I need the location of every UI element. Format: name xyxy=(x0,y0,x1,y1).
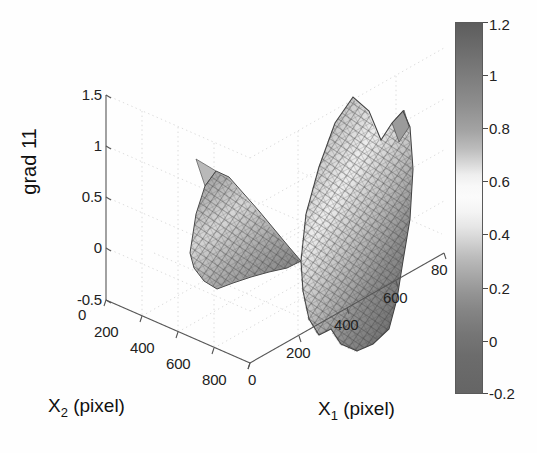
colorbar-tick-7: -0.2 xyxy=(489,385,515,402)
colorbar-tick-6: 0 xyxy=(489,333,497,350)
x2-axis-title-sub: 2 xyxy=(61,405,68,420)
x1-tick-3: 600 xyxy=(383,290,407,305)
surface-left-lobe xyxy=(180,150,320,300)
colorbar-tickmark-6 xyxy=(483,341,488,342)
colorbar-tickmark-0 xyxy=(483,22,488,23)
x2-tick-0: 0 xyxy=(78,307,86,322)
colorbar-tickmark-5 xyxy=(483,288,488,289)
colorbar-tickmark-4 xyxy=(483,234,488,235)
x2-tick-1: 200 xyxy=(94,324,118,339)
z-axis-title: grad 11 xyxy=(18,97,41,227)
x1-axis-title-sub: 1 xyxy=(331,408,338,423)
x2-tick-4: 800 xyxy=(202,372,226,387)
colorbar-tick-3: 0.6 xyxy=(489,173,510,190)
x1-axis-title-prefix: X xyxy=(318,398,331,419)
x1-axis-title-suffix: (pixel) xyxy=(338,398,395,419)
colorbar-tick-0: 1.2 xyxy=(489,16,510,33)
colorbar-tickmark-3 xyxy=(483,181,488,182)
x2-tick-2: 400 xyxy=(130,340,154,355)
x1-tick-1: 200 xyxy=(286,345,310,360)
x2-axis-line xyxy=(106,300,250,363)
surface-right-lobe xyxy=(292,90,427,360)
plot-area: .gridline{stroke:#d8d8d8;stroke-width:0.… xyxy=(0,0,455,453)
colorbar: 1.2 1 0.8 0.6 0.4 0.2 0 -0.2 xyxy=(455,22,537,394)
colorbar-tick-4: 0.4 xyxy=(489,226,510,243)
z-tick-2: 0.5 xyxy=(50,189,102,204)
x1-tick-2: 400 xyxy=(334,317,358,332)
z-tick-4: -0.5 xyxy=(44,292,102,307)
colorbar-tick-2: 0.8 xyxy=(489,120,510,137)
colorbar-tickmark-1 xyxy=(483,75,488,76)
x1-axis-title: X1 (pixel) xyxy=(318,398,395,423)
x1-tick-4: 80 xyxy=(431,262,447,277)
colorbar-gradient xyxy=(455,22,483,394)
colorbar-tick-1: 1 xyxy=(489,67,497,84)
x2-axis-title-suffix: (pixel) xyxy=(68,395,125,416)
colorbar-tickmark-2 xyxy=(483,128,488,129)
x2-axis-title-prefix: X xyxy=(48,395,61,416)
x2-tick-3: 600 xyxy=(166,356,190,371)
colorbar-tick-5: 0.2 xyxy=(489,280,510,297)
x2-axis-title: X2 (pixel) xyxy=(48,395,125,420)
z-tick-0: 1.5 xyxy=(50,87,102,102)
colorbar-tickmark-7 xyxy=(483,393,488,394)
z-tick-3: 0 xyxy=(50,240,102,255)
z-tick-1: 1 xyxy=(50,138,102,153)
figure-3d-surface-plot: .gridline{stroke:#d8d8d8;stroke-width:0.… xyxy=(0,0,537,453)
x1-tick-0: 0 xyxy=(248,372,256,387)
